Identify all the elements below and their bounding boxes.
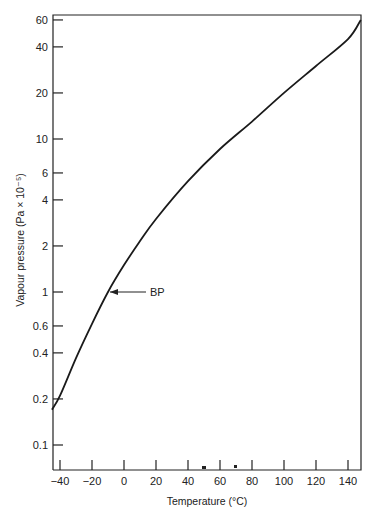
y-axis-title: Vapour pressure (Pa × 10⁻⁵) — [14, 173, 26, 307]
y-tick-label: 10 — [36, 133, 48, 145]
y-tick-label: 40 — [36, 41, 48, 53]
x-tick-label: 120 — [307, 475, 325, 487]
vapour-pressure-curve — [52, 20, 361, 410]
y-tick-label: 0.1 — [33, 439, 48, 451]
vapour-pressure-chart: 0.10.20.40.6124610204060 −40−20020406080… — [0, 0, 378, 520]
plot-frame — [53, 15, 361, 470]
x-tick-label: 0 — [121, 475, 127, 487]
y-tick-label: 1 — [42, 286, 48, 298]
bp-annotation: BP — [110, 286, 165, 298]
x-tick-label: 60 — [214, 475, 226, 487]
x-axis-ticks: −40−20020406080100120140 — [51, 460, 358, 487]
x-tick-label: 80 — [246, 475, 258, 487]
bp-label: BP — [150, 286, 165, 298]
y-tick-label: 0.2 — [33, 393, 48, 405]
y-tick-label: 20 — [36, 87, 48, 99]
x-tick-label: 40 — [182, 475, 194, 487]
x-axis-title: Temperature (°C) — [167, 495, 248, 507]
x-tick-label: 140 — [339, 475, 357, 487]
x-tick-label: −20 — [83, 475, 102, 487]
y-tick-label: 6 — [42, 167, 48, 179]
y-tick-label: 4 — [42, 194, 48, 206]
y-tick-label: 60 — [36, 14, 48, 26]
x-tick-label: 100 — [275, 475, 293, 487]
x-tick-label: −40 — [51, 475, 70, 487]
y-tick-label: 2 — [42, 240, 48, 252]
y-tick-label: 0.4 — [33, 347, 48, 359]
y-tick-label: 0.6 — [33, 320, 48, 332]
x-tick-label: 20 — [150, 475, 162, 487]
y-axis-ticks: 0.10.20.40.6124610204060 — [33, 14, 63, 451]
